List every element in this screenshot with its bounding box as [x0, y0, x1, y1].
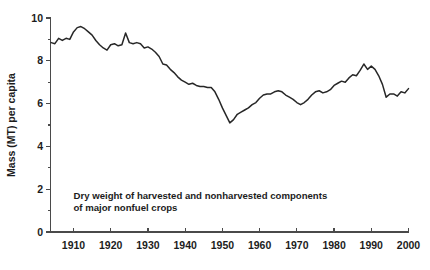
- x-tick-label-1960: 1960: [248, 239, 272, 251]
- x-tick-label-1980: 1980: [322, 239, 346, 251]
- y-tick-label-0: 0: [37, 226, 43, 238]
- series-group: [51, 27, 408, 123]
- chart-figure: 0246810 19101920193019401950196019701980…: [0, 0, 430, 270]
- y-axis-title: Mass (MT) per capita: [5, 73, 17, 177]
- x-tick-labels: 1910192019301940195019601970198019902000: [62, 239, 421, 251]
- x-tick-label-1930: 1930: [136, 239, 160, 251]
- x-tick-label-1970: 1970: [285, 239, 309, 251]
- chart-annotation: Dry weight of harvested and nonharvested…: [74, 190, 328, 214]
- x-tick-label-1940: 1940: [173, 239, 197, 251]
- annotation-line-1: Dry weight of harvested and nonharvested…: [74, 190, 328, 201]
- y-axis-title-text: Mass (MT) per capita: [5, 73, 17, 177]
- line-chart: 0246810 19101920193019401950196019701980…: [0, 0, 430, 270]
- y-tick-labels: 0246810: [31, 12, 43, 238]
- y-tick-label-10: 10: [31, 12, 43, 24]
- y-tick-label-8: 8: [37, 54, 43, 66]
- x-tick-label-1920: 1920: [99, 239, 123, 251]
- series-line-0: [51, 27, 408, 123]
- y-tick-label-2: 2: [37, 183, 43, 195]
- y-tick-label-4: 4: [37, 140, 43, 152]
- x-tick-label-1990: 1990: [360, 239, 384, 251]
- x-tick-label-1950: 1950: [211, 239, 235, 251]
- x-tick-label-1910: 1910: [62, 239, 86, 251]
- annotation-line-2: of major nonfuel crops: [74, 202, 178, 213]
- y-tick-label-6: 6: [37, 97, 43, 109]
- x-tick-label-2000: 2000: [397, 239, 421, 251]
